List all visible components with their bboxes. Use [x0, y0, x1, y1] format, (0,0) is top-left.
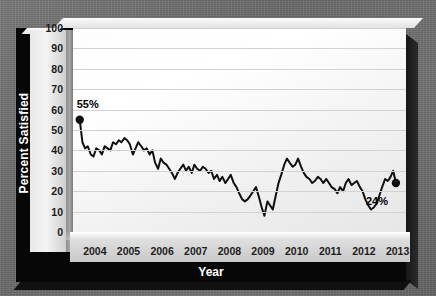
x-axis-tick-label: 2006 [150, 245, 173, 257]
plot-area: 55% 24% [73, 28, 406, 232]
x-axis-tick-label: 2012 [352, 245, 375, 257]
gridline [73, 69, 406, 70]
y-axis-tick-label: 70 [51, 84, 63, 95]
x-axis-shelf [70, 232, 410, 240]
gridline [73, 28, 406, 29]
gridline [73, 150, 406, 151]
y-axis-tick-label: 80 [51, 64, 63, 75]
data-point-marker [392, 179, 400, 187]
x-axis-tick-label: 2011 [319, 245, 342, 257]
chart-3d-block: Percent Satisfied 1009080706050403020100… [8, 8, 428, 288]
y-axis-tick-label: 0 [57, 227, 63, 238]
data-series-line [80, 120, 396, 216]
gridline [73, 171, 406, 172]
gridline [73, 110, 406, 111]
gridline [73, 48, 406, 49]
x-axis-tick-label: 2009 [251, 245, 274, 257]
y-axis-tick-label: 100 [45, 23, 63, 34]
y-axis-tick-label: 10 [51, 207, 63, 218]
x-axis-ticks: 2004200520062007200820092010201120122013 [70, 240, 410, 262]
y-axis-bevel [66, 30, 73, 252]
x-axis-tick-label: 2004 [83, 245, 106, 257]
x-axis-tick-label: 2005 [117, 245, 140, 257]
y-axis-tick-label: 50 [51, 125, 63, 136]
y-axis-tick-label: 20 [51, 186, 63, 197]
plot-top-bevel [54, 18, 423, 28]
y-axis-title-label: Percent Satisfied [17, 93, 31, 194]
x-axis-tick-label: 2007 [184, 245, 207, 257]
annotation-end-value: 24% [366, 195, 388, 207]
x-axis-tick-label: 2013 [386, 245, 409, 257]
x-axis-tick-label: 2010 [285, 245, 308, 257]
annotation-start-value: 55% [77, 98, 99, 110]
data-point-marker [76, 116, 84, 124]
y-axis-scale: 1009080706050403020100 [30, 30, 66, 252]
data-point-markers [76, 116, 401, 188]
gridline [73, 212, 406, 213]
gridline [73, 89, 406, 90]
gridline [73, 191, 406, 192]
x-axis-title-label: Year [198, 265, 223, 279]
gridline [73, 130, 406, 131]
y-axis-tick-label: 60 [51, 105, 63, 116]
x-axis-tick-label: 2008 [218, 245, 241, 257]
y-axis-tick-label: 40 [51, 145, 63, 156]
x-axis-title-band: Year [16, 262, 406, 282]
y-axis-tick-label: 90 [51, 43, 63, 54]
y-axis-tick-label: 30 [51, 166, 63, 177]
